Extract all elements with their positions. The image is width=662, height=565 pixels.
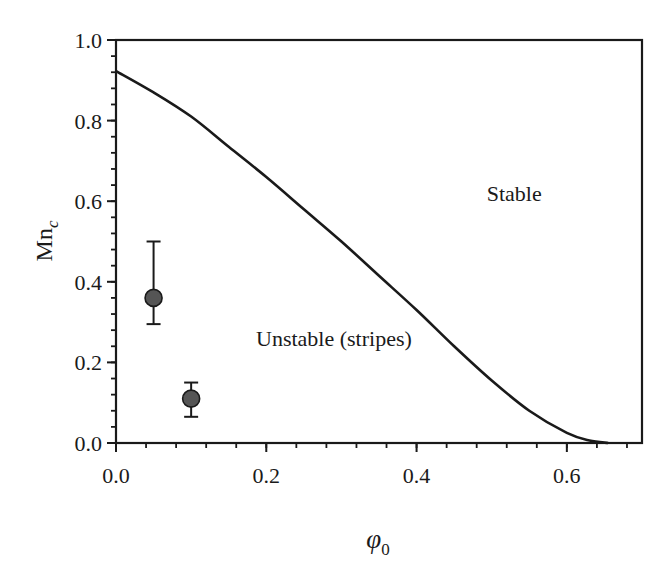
data-point-with-error-bar: [145, 242, 162, 325]
tick-labels: 0.00.20.40.60.00.20.40.60.81.0: [75, 28, 581, 488]
major-ticks: [107, 40, 567, 452]
x-axis-title: φ0: [366, 524, 389, 559]
data-point-with-error-bar: [183, 383, 200, 417]
data-point-marker: [183, 390, 200, 407]
y-tick-label: 0.4: [75, 270, 103, 295]
region-annotations: StableUnstable (stripes): [256, 181, 542, 351]
minor-ticks: [111, 40, 627, 448]
y-tick-label: 0.8: [75, 109, 103, 134]
stability-boundary-curve: [116, 71, 608, 443]
x-tick-label: 0.2: [253, 463, 281, 488]
data-point-marker: [145, 289, 162, 306]
data-points: [145, 242, 200, 417]
y-tick-label: 1.0: [75, 28, 103, 53]
y-tick-label: 0.0: [75, 431, 103, 456]
region-label: Unstable (stripes): [256, 326, 412, 351]
x-tick-label: 0.0: [102, 463, 130, 488]
y-axis-title: Mnc: [31, 220, 62, 261]
region-label: Stable: [487, 181, 542, 206]
x-tick-label: 0.4: [403, 463, 431, 488]
x-tick-label: 0.6: [553, 463, 581, 488]
y-tick-label: 0.6: [75, 189, 103, 214]
phase-diagram-chart: 0.00.20.40.60.00.20.40.60.81.0 StableUns…: [0, 0, 662, 565]
y-tick-label: 0.2: [75, 350, 103, 375]
